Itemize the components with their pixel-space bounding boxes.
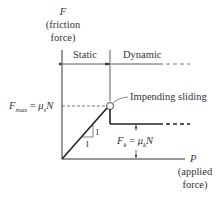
y-axis-symbol: F <box>56 6 70 18</box>
x-axis-symbol: P <box>190 153 196 165</box>
fk-label: Fk = μkN <box>117 135 153 151</box>
static-label: Static <box>73 49 97 61</box>
annotation-leader <box>113 97 128 103</box>
static-ramp-line <box>62 108 107 159</box>
y-axis-caption-2: force) <box>38 32 88 44</box>
impending-sliding-label: Impending sliding <box>130 91 207 103</box>
fmax-label: Fmax = μsN <box>9 100 53 116</box>
dynamic-label: Dynamic <box>123 49 162 61</box>
y-axis-caption-1: (friction <box>38 19 88 31</box>
x-axis-caption-2: force) <box>172 179 218 191</box>
slope-run: 1 <box>85 138 90 150</box>
impending-sliding-marker <box>107 103 114 110</box>
x-axis-caption-1: (applied <box>172 166 218 178</box>
slope-rise: 1 <box>95 126 100 138</box>
